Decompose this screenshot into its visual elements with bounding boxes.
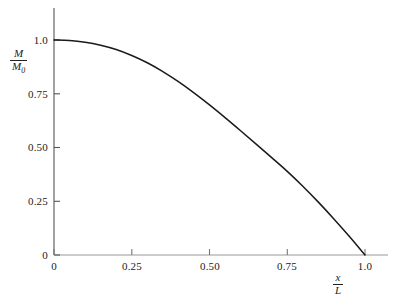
y-tick-label-2: 0.50 [14,141,48,153]
y-axis-label-denominator-subscript: 0 [21,66,25,75]
y-tick-label-3: 0.75 [14,88,48,100]
data-curve-series-0 [54,40,365,255]
x-tick-label-4: 1.0 [358,260,372,272]
y-axis-label: M M0 [10,48,27,75]
plot-canvas [0,0,397,301]
x-tick-label-1: 0.25 [122,260,142,272]
x-axis-ticks [54,249,365,255]
x-axis-label: x L [333,272,343,296]
x-tick-label-3: 0.75 [277,260,297,272]
x-axis-label-numerator: x [333,272,343,285]
y-tick-label-1: 0.25 [14,195,48,207]
x-axis-label-denominator: L [333,285,343,297]
y-axis-label-denominator: M0 [10,61,27,76]
x-tick-label-0: 0 [51,260,57,272]
y-axis-ticks [54,40,60,255]
y-tick-label-4: 1.0 [14,34,48,46]
y-axis-label-denominator-base: M [12,60,21,72]
y-tick-label-0: 0 [20,249,48,261]
chart-figure: 0 0.25 0.50 0.75 1.0 0 0.25 0.50 0.75 1.… [0,0,397,301]
x-tick-label-2: 0.50 [200,260,220,272]
